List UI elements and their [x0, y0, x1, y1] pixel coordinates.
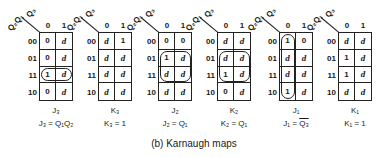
row-header-01: 01 — [322, 54, 336, 63]
axis-divider — [141, 17, 160, 33]
kmap-k2: Q₃ Q₂Q₁ 0 1 00 01 11 10 d d d d 1 d 0 d … — [178, 0, 238, 130]
cell: 0 — [40, 50, 56, 67]
left-variable-label: Q₂Q₁ — [65, 12, 84, 33]
row-header-11: 11 — [322, 71, 336, 80]
cell: d — [355, 67, 371, 84]
top-variable-label: Q₃ — [24, 6, 37, 19]
cell: d — [339, 83, 355, 100]
col-header-0: 0 — [339, 21, 355, 30]
cell: d — [355, 50, 371, 67]
row-header-10: 10 — [23, 88, 37, 97]
top-variable-label: Q₃ — [323, 6, 336, 19]
kmap-j2: Q₃ Q₂Q₁ 0 1 00 01 11 10 0 0 1 d d d d d … — [119, 0, 179, 130]
cell: d — [99, 50, 115, 67]
axis-divider — [22, 17, 41, 33]
row-header-10: 10 — [142, 88, 156, 97]
map-equation: K₁ = 1 — [320, 119, 388, 128]
col-header-0: 0 — [280, 21, 296, 30]
left-variable-label: Q₂Q₁ — [125, 12, 144, 33]
row-header-00: 00 — [263, 37, 277, 46]
col-header-0: 0 — [99, 21, 115, 30]
left-variable-label: Q₂Q₁ — [305, 12, 324, 33]
row-header-11: 11 — [201, 71, 215, 80]
cell: d — [355, 33, 371, 50]
row-header-01: 01 — [82, 54, 96, 63]
figure-caption: (b) Karnaugh maps — [0, 138, 388, 149]
col-header-1: 1 — [355, 21, 371, 30]
equation-lhs: J₁ = — [283, 119, 299, 128]
grouping-loop — [281, 34, 295, 99]
cell: 1 — [339, 67, 355, 84]
cell: d — [218, 33, 234, 50]
cell: d — [99, 67, 115, 84]
map-title: K₁ — [325, 106, 385, 115]
row-header-00: 00 — [23, 37, 37, 46]
kmap-j3: Q₃ Q₂Q₁ 0 1 00 01 11 10 0 d 0 d 1 d 0 d … — [0, 0, 60, 130]
row-header-00: 00 — [322, 37, 336, 46]
kmap-j1: Q₃ Q₂Q₁ 0 1 00 01 11 10 1 0 d d d d 1 d … — [240, 0, 300, 130]
row-header-10: 10 — [201, 88, 215, 97]
cell: 0 — [218, 83, 234, 100]
row-header-11: 11 — [82, 71, 96, 80]
left-variable-label: Q₂Q₁ — [6, 12, 25, 33]
row-header-10: 10 — [82, 88, 96, 97]
axis-divider — [262, 17, 281, 33]
kmap-grid: d d 1 d 1 d d d — [338, 32, 372, 101]
row-header-00: 00 — [142, 37, 156, 46]
row-header-01: 01 — [142, 54, 156, 63]
row-header-00: 00 — [82, 37, 96, 46]
left-variable-label: Q₂Q₁ — [184, 12, 203, 33]
cell: d — [99, 33, 115, 50]
top-variable-label: Q₃ — [143, 6, 156, 19]
col-header-0: 0 — [40, 21, 56, 30]
row-header-00: 00 — [201, 37, 215, 46]
cell: 0 — [40, 33, 56, 50]
cell: 1 — [339, 50, 355, 67]
top-variable-label: Q₃ — [202, 6, 215, 19]
cell: d — [355, 83, 371, 100]
axis-divider — [81, 17, 100, 33]
kmap-k3: Q₃ Q₂Q₁ 0 1 00 01 11 10 d 1 d d d d d d … — [59, 0, 119, 130]
row-header-10: 10 — [322, 88, 336, 97]
row-header-11: 11 — [23, 71, 37, 80]
row-header-11: 11 — [263, 71, 277, 80]
left-variable-label: Q₂Q₁ — [246, 12, 265, 33]
cell: 0 — [40, 83, 56, 100]
col-header-0: 0 — [218, 21, 234, 30]
cell: d — [339, 33, 355, 50]
row-header-01: 01 — [23, 54, 37, 63]
row-header-11: 11 — [142, 71, 156, 80]
axis-divider — [200, 17, 219, 33]
row-header-01: 01 — [201, 54, 215, 63]
cell: d — [99, 83, 115, 100]
kmap-k1: Q₃ Q₂Q₁ 0 1 00 01 11 10 d d 1 d 1 d d d … — [299, 0, 359, 130]
col-header-0: 0 — [159, 21, 175, 30]
row-header-01: 01 — [263, 54, 277, 63]
top-variable-label: Q₃ — [83, 6, 96, 19]
top-variable-label: Q₃ — [264, 6, 277, 19]
axis-divider — [321, 17, 340, 33]
row-header-10: 10 — [263, 88, 277, 97]
cell: d — [159, 83, 175, 100]
cell: 0 — [159, 33, 175, 50]
